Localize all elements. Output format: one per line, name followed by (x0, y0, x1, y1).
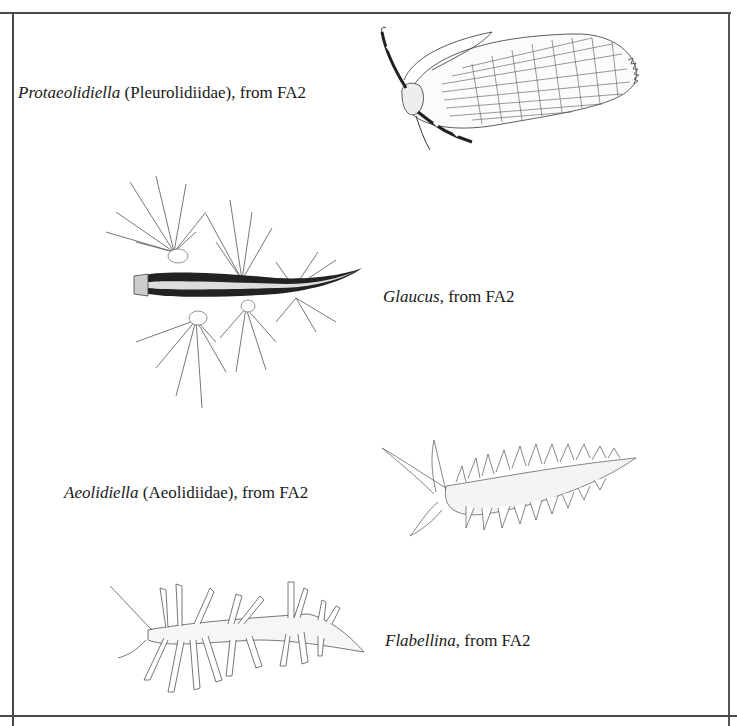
genus-name: Aeolidiella (64, 483, 139, 502)
family-name: (Aeolidiidae) (143, 483, 234, 502)
frame-bottom-border (0, 715, 737, 717)
source-ref: , from FA2 (233, 483, 308, 502)
genus-name: Glaucus (383, 287, 440, 306)
frame-right-border (728, 12, 730, 726)
frame-top-border (0, 12, 731, 14)
source-ref: , from FA2 (440, 287, 515, 306)
source-ref: , from FA2 (231, 83, 306, 102)
caption-flabellina: Flabellina, from FA2 (385, 631, 531, 651)
glaucus-drawing (96, 172, 366, 420)
frame-left-border (12, 12, 14, 726)
caption-protaeolidiella: Protaeolidiella (Pleurolidiidae), from F… (18, 83, 306, 103)
protaeolidiella-drawing (372, 24, 644, 156)
aeolidiella-drawing (376, 436, 646, 540)
caption-glaucus: Glaucus, from FA2 (383, 287, 514, 307)
flabellina-drawing (98, 568, 370, 710)
caption-aeolidiella: Aeolidiella (Aeolidiidae), from FA2 (64, 483, 308, 503)
source-ref: , from FA2 (456, 631, 531, 650)
genus-name: Protaeolidiella (18, 83, 120, 102)
genus-name: Flabellina (385, 631, 456, 650)
family-name: (Pleurolidiidae) (125, 83, 232, 102)
